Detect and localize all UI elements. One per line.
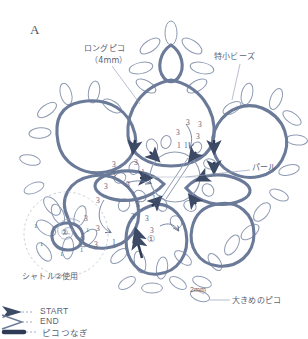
stitch-num: 3 [131,212,135,221]
stitch-num: 1 [141,168,145,177]
stitch-num: 3 [176,128,180,137]
stitch-num: 1 [40,240,43,247]
label-large-picot: 大きめのピコ [232,296,281,306]
stitch-num: 3 [198,120,202,129]
stitch-num: 3 [96,196,100,205]
legend-label-end: END [40,316,59,326]
stitch-num: 3 [186,118,190,127]
label-long-picot: ロングピコ [84,44,125,54]
stitch-num: 3 [145,214,149,223]
label-long-picot-size: （4mm） [90,56,128,66]
ring-marker-1: ① [147,234,155,244]
top-cut-text [168,0,186,7]
petal-lower-right [191,203,254,266]
label-tiny-beads: 特小ビーズ [214,52,255,62]
stitch-num: 1 [158,194,162,203]
page-title: A [30,22,39,38]
stitch-num: 1 [86,226,89,233]
stitch-num: 3 [134,158,138,167]
legend-symbols [2,306,36,332]
label-shuttle-use: シャトル②使用 [22,272,79,282]
label-2mm: 2mm [190,286,206,295]
stitch-num: 1 [177,141,181,150]
stitch-num: 3 [112,170,116,179]
petal-crown [160,45,182,82]
stitch-num: 3 [104,182,108,191]
stitch-num: 3 [94,240,98,249]
petal-upper-left [57,101,136,173]
stitch-num: 1 [112,238,116,247]
ring-marker-2: ② [61,228,68,237]
stitch-num: 3 [112,160,116,169]
stitch-num: 3 [150,226,154,235]
label-pearl: パール [252,163,277,173]
stitch-num: 3 [126,180,130,189]
stitch-num: 1 [80,246,83,253]
legend-end-symbol [2,315,22,329]
petal-center-right [186,175,250,205]
stitch-num: 1 [152,194,156,203]
stitch-num: 1 [184,141,188,150]
large-petal-rings [52,45,287,274]
diagram-canvas: A ロングピコ （4mm） 特小ビーズ パール シャトル②使用 2mm 大きめの… [0,0,308,339]
stitch-num: 3 [96,224,100,233]
stitch-num: 1 [60,250,63,257]
stitch-num: 1 [34,222,37,229]
stitch-num: 3 [84,214,88,223]
legend-label-start: START [40,306,69,316]
legend-label-picot-join: ピコつなぎ [42,326,89,338]
stitch-num: 3 [136,200,140,209]
stitch-num: 3 [196,132,200,141]
petal-lower-center [126,204,187,274]
